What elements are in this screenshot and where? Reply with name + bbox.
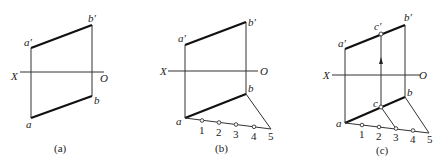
label-x: X xyxy=(10,70,19,82)
label-o: O xyxy=(419,69,427,81)
division-point-4 xyxy=(252,125,256,129)
label-b-prime: b′ xyxy=(248,16,257,28)
top-view-ab xyxy=(185,94,246,118)
projection-diagram: X O a′ b′ a b (a) 1 2 3 4 5 X O a′ b′ a … xyxy=(0,0,445,165)
division-point-4 xyxy=(411,129,415,133)
label-o: O xyxy=(100,72,108,84)
label-x: X xyxy=(159,65,168,77)
label-b: b xyxy=(407,86,413,98)
connector-b-5 xyxy=(405,97,429,133)
label-a: a xyxy=(26,118,32,130)
label-a-prime: a′ xyxy=(338,37,347,49)
label-o: O xyxy=(260,65,268,77)
division-label-1: 1 xyxy=(199,124,205,136)
division-label-4: 4 xyxy=(251,130,257,142)
division-label-4: 4 xyxy=(410,133,416,145)
caption-b: (b) xyxy=(215,142,228,155)
label-x: X xyxy=(322,69,331,81)
figure-a: X O a′ b′ a b (a) xyxy=(10,12,108,155)
top-view-ab xyxy=(31,96,92,118)
division-point-3 xyxy=(394,127,398,131)
label-a: a xyxy=(336,117,342,129)
auxiliary-line xyxy=(345,123,429,133)
division-label-1: 1 xyxy=(359,128,365,140)
label-b-prime: b′ xyxy=(404,11,413,23)
division-label-2: 2 xyxy=(216,126,222,138)
division-point-1 xyxy=(360,123,364,127)
caption-c: (c) xyxy=(376,144,389,157)
front-view-ab xyxy=(185,22,246,45)
point-c xyxy=(379,105,383,109)
division-label-5: 5 xyxy=(268,130,274,142)
connector-c-3 xyxy=(381,107,396,129)
division-point-2 xyxy=(217,121,221,125)
label-c: c xyxy=(373,97,378,109)
division-label-3: 3 xyxy=(393,131,399,143)
arrow-up-icon xyxy=(379,57,383,64)
point-c-prime xyxy=(379,32,383,36)
figure-b: 1 2 3 4 5 X O a′ b′ a b (b) xyxy=(159,16,274,155)
figure-c: 1 2 3 4 5 X O a′ b′ c′ a b c (c) xyxy=(322,11,433,157)
division-point-2 xyxy=(377,125,381,129)
division-point-1 xyxy=(200,119,204,123)
division-label-2: 2 xyxy=(376,130,382,142)
caption-a: (a) xyxy=(54,142,67,155)
division-point-3 xyxy=(234,123,238,127)
front-view-ab xyxy=(31,25,92,48)
auxiliary-line xyxy=(185,118,271,129)
label-b: b xyxy=(94,94,100,106)
label-a-prime: a′ xyxy=(24,36,33,48)
label-c-prime: c′ xyxy=(374,20,382,32)
label-a: a xyxy=(176,115,182,127)
label-a-prime: a′ xyxy=(178,32,187,44)
connector-b-5 xyxy=(246,94,271,129)
division-label-3: 3 xyxy=(233,128,239,140)
division-label-5: 5 xyxy=(427,133,433,145)
label-b: b xyxy=(248,82,254,94)
label-b-prime: b′ xyxy=(88,12,97,24)
